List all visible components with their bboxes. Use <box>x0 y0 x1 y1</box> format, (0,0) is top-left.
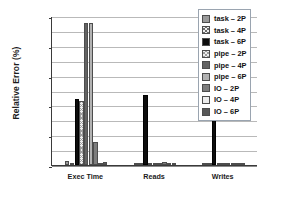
legend-item: task – 2P <box>202 13 246 25</box>
legend-swatch-icon <box>202 38 210 46</box>
x-axis-tick-label: Reads <box>143 172 165 181</box>
y-axis-tick <box>49 167 52 168</box>
bar <box>143 95 147 165</box>
legend-swatch-icon <box>202 84 210 92</box>
legend-item: pipe – 6P <box>202 71 246 83</box>
bar <box>93 142 97 165</box>
legend-swatch-icon <box>202 73 210 81</box>
legend: task – 2Ptask – 4Ptask – 6Ppipe – 2Ppipe… <box>198 9 251 121</box>
legend-swatch-icon <box>202 96 210 104</box>
legend-label: IO – 4P <box>214 95 239 104</box>
bar <box>103 162 107 165</box>
legend-swatch-icon <box>202 108 210 116</box>
x-axis-tick-label: Writes <box>212 172 234 181</box>
bar <box>240 163 244 165</box>
bar-chart: Relative Error (%) 0.00%0.20%0.40%0.60%0… <box>0 0 287 197</box>
legend-label: task – 6P <box>214 37 246 46</box>
legend-label: task – 4P <box>214 26 246 35</box>
legend-label: task – 2P <box>214 14 246 23</box>
legend-item: pipe – 4P <box>202 59 246 71</box>
legend-item: IO – 6P <box>202 106 246 118</box>
legend-label: pipe – 6P <box>214 72 246 81</box>
bar <box>212 114 216 165</box>
legend-label: pipe – 4P <box>214 61 246 70</box>
legend-swatch-icon <box>202 61 210 69</box>
bar-group <box>121 17 190 165</box>
legend-item: task – 6P <box>202 36 246 48</box>
legend-swatch-icon <box>202 50 210 58</box>
legend-item: pipe – 2P <box>202 48 246 60</box>
legend-label: pipe – 2P <box>214 49 246 58</box>
bar-group <box>52 17 121 165</box>
legend-item: IO – 4P <box>202 94 246 106</box>
legend-item: IO – 2P <box>202 83 246 95</box>
legend-label: IO – 2P <box>214 84 239 93</box>
gridline <box>52 166 257 167</box>
legend-label: IO – 6P <box>214 107 239 116</box>
y-axis-title: Relative Error (%) <box>11 23 21 143</box>
legend-swatch-icon <box>202 15 210 23</box>
bar <box>172 163 176 165</box>
legend-swatch-icon <box>202 26 210 34</box>
x-axis-tick-label: Exec Time <box>68 172 103 181</box>
legend-item: task – 4P <box>202 25 246 37</box>
